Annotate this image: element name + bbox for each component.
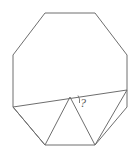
- chord-line: [13, 90, 127, 107]
- inscribed-triangle: [45, 97, 95, 145]
- geometry-figure-container: ?: [0, 0, 138, 154]
- geometry-diagram: ?: [0, 0, 138, 154]
- triangle-left-leg: [13, 107, 45, 145]
- triangle-right-leg: [95, 90, 127, 145]
- angle-label: ?: [80, 96, 86, 110]
- octagon-outline: [13, 13, 127, 145]
